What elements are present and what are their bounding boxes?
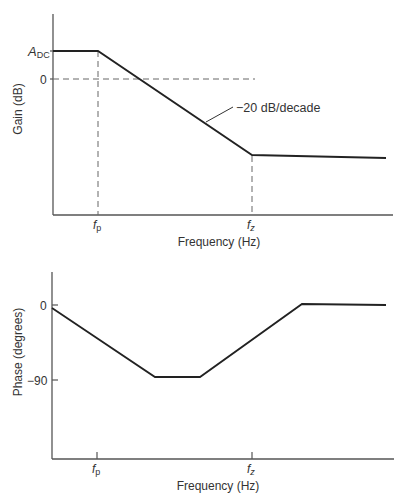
gain-y-label: Gain (dB) bbox=[11, 83, 25, 134]
gain-curve bbox=[53, 51, 386, 158]
phase-zero-label: 0 bbox=[40, 299, 47, 313]
phase-minus90-label: −90 bbox=[27, 374, 48, 388]
phase-curve bbox=[52, 304, 386, 377]
zero-db-label: 0 bbox=[40, 73, 47, 87]
phase-fz-label: fz bbox=[247, 462, 255, 477]
adc-label: ADC bbox=[27, 44, 50, 60]
annotation-leader bbox=[206, 107, 233, 122]
phase-y-label: Phase (degrees) bbox=[11, 308, 25, 397]
phase-plot: 0 −90 Phase (degrees) fp fz Frequency (H… bbox=[11, 272, 394, 493]
bode-diagram: −20 dB/decade ADC 0 Gain (dB) fp fz Freq… bbox=[0, 0, 407, 504]
phase-fp-label: fp bbox=[92, 462, 100, 477]
phase-x-label: Frequency (Hz) bbox=[177, 479, 260, 493]
slope-annotation: −20 dB/decade bbox=[236, 101, 320, 115]
fp-label: fp bbox=[93, 218, 101, 233]
gain-x-label: Frequency (Hz) bbox=[178, 235, 261, 249]
gain-plot: −20 dB/decade ADC 0 Gain (dB) fp fz Freq… bbox=[11, 14, 393, 249]
fz-label: fz bbox=[247, 218, 255, 233]
